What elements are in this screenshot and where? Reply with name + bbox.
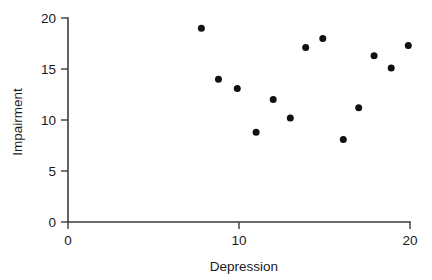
data-point xyxy=(287,114,294,121)
y-axis-title: Impairment xyxy=(10,88,25,156)
y-tick-label-10: 10 xyxy=(41,113,56,128)
data-point xyxy=(253,129,260,136)
data-point xyxy=(355,104,362,111)
data-point xyxy=(340,136,347,143)
data-point xyxy=(215,76,222,83)
y-tick-label-20: 20 xyxy=(41,11,56,26)
plot-canvas: 20 15 10 5 0 0 10 20 Depression Impairme… xyxy=(0,0,432,280)
data-point xyxy=(371,52,378,59)
scatter-plot-figure: 20 15 10 5 0 0 10 20 Depression Impairme… xyxy=(0,0,432,280)
x-tick-label-20: 20 xyxy=(402,233,417,248)
x-tick-label-0: 0 xyxy=(64,233,72,248)
data-point xyxy=(388,64,395,71)
data-point xyxy=(319,35,326,42)
data-point xyxy=(405,42,412,49)
data-point xyxy=(270,96,277,103)
y-tick-label-15: 15 xyxy=(41,62,56,77)
x-axis-title: Depression xyxy=(210,259,278,274)
y-tick-label-5: 5 xyxy=(48,164,56,179)
data-point xyxy=(198,25,205,32)
data-point xyxy=(234,85,241,92)
data-point xyxy=(302,44,309,51)
y-tick-label-0: 0 xyxy=(48,215,56,230)
x-tick-label-10: 10 xyxy=(231,233,246,248)
